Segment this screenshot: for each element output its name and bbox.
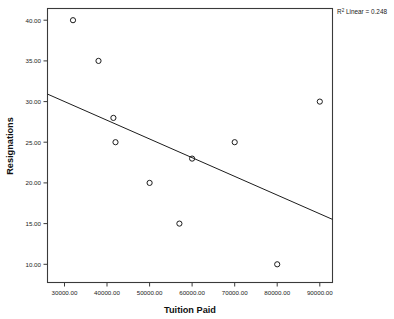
- r-squared-annotation: R2 Linear = 0.248: [337, 8, 387, 15]
- y-axis-title: Resignations: [5, 117, 15, 175]
- r-squared-value: Linear = 0.248: [344, 8, 387, 15]
- y-tick-label: 40.00: [26, 17, 42, 24]
- y-tick-label: 30.00: [26, 98, 42, 105]
- y-tick-label: 35.00: [26, 57, 42, 64]
- y-tick-label: 25.00: [26, 139, 42, 146]
- y-tick-label: 15.00: [26, 220, 42, 227]
- x-tick-label: 30000.00: [52, 289, 78, 296]
- x-tick-label: 50000.00: [137, 289, 163, 296]
- data-point-marker: [317, 99, 322, 104]
- y-axis-ticks: 40.00 35.00 30.00 25.00 20.00 15.00 10.0…: [26, 17, 48, 268]
- data-point-marker: [70, 18, 75, 23]
- plot-border: [48, 9, 333, 283]
- x-tick-label: 40000.00: [94, 289, 120, 296]
- x-axis-ticks: 30000.00 40000.00 50000.00 60000.00 7000…: [52, 283, 334, 296]
- data-point-marker: [96, 58, 101, 63]
- data-point-marker: [113, 140, 118, 145]
- x-tick-label: 60000.00: [179, 289, 205, 296]
- data-point-marker: [275, 262, 280, 267]
- plot-canvas: 40.00 35.00 30.00 25.00 20.00 15.00 10.0…: [0, 0, 394, 319]
- scatter-plot-figure: 40.00 35.00 30.00 25.00 20.00 15.00 10.0…: [0, 0, 394, 319]
- data-points: [70, 18, 322, 267]
- x-tick-label: 90000.00: [307, 289, 333, 296]
- plot-frame: [48, 9, 333, 283]
- data-point-marker: [177, 221, 182, 226]
- data-point-marker: [232, 140, 237, 145]
- data-point-marker: [147, 180, 152, 185]
- data-point-marker: [111, 115, 116, 120]
- y-tick-label: 20.00: [26, 179, 42, 186]
- y-tick-label: 10.00: [26, 261, 42, 268]
- x-axis-title: Tuition Paid: [164, 305, 216, 315]
- x-tick-label: 80000.00: [264, 289, 290, 296]
- x-tick-label: 70000.00: [222, 289, 248, 296]
